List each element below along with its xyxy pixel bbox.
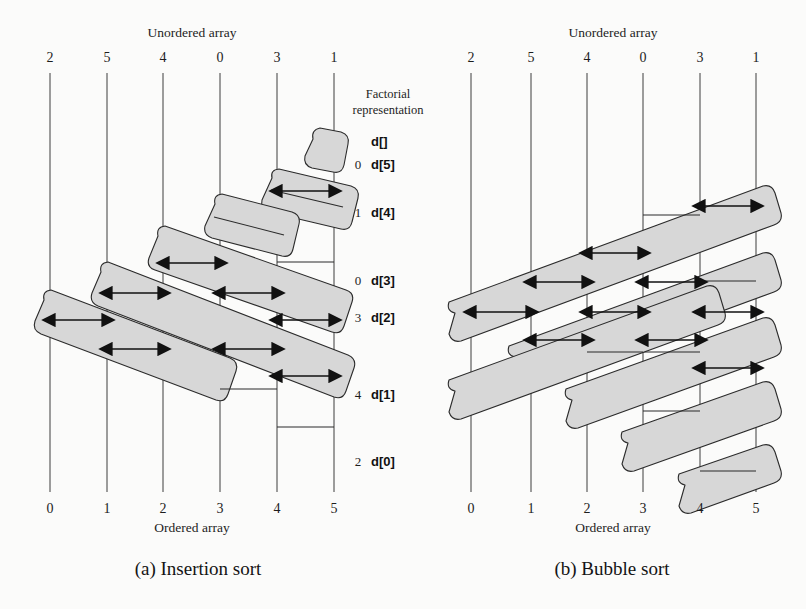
panel-b-top-title: Unordered array: [569, 25, 658, 40]
panel-b-top-label-2: 4: [584, 50, 591, 65]
panel-a-bottom-label-5: 5: [331, 501, 338, 516]
panel-a-bottom-label-1: 1: [104, 501, 111, 516]
panel-b-top-label-3: 0: [640, 50, 647, 65]
factorial-name-4: d[2]: [371, 310, 395, 325]
factorial-name-3: d[3]: [371, 273, 395, 288]
panel-a-bottom-label-3: 3: [217, 501, 224, 516]
panel-a-top-label-1: 5: [104, 50, 111, 65]
band-b-5: [678, 445, 781, 514]
factorial-representation-block: Factorial representation d[] 0 d[5] 1 d[…: [353, 87, 425, 469]
factorial-title-line1: Factorial: [366, 87, 411, 101]
factorial-name-2: d[4]: [371, 205, 395, 220]
panel-b-caption: (b) Bubble sort: [554, 558, 670, 580]
panel-a-top-labels: 2 5 4 0 3 1: [47, 50, 338, 65]
factorial-name-6: d[0]: [371, 454, 395, 469]
panel-a-bottom-label-4: 4: [274, 501, 281, 516]
figure-canvas: Unordered array 2 5 4 0 3 1 0 1 2 3 4 5 …: [0, 0, 806, 609]
panel-a-caption: (a) Insertion sort: [135, 558, 262, 580]
panel-a-top-label-5: 1: [331, 50, 338, 65]
panel-b-bottom-title: Ordered array: [575, 520, 651, 535]
panel-a-bottom-label-2: 2: [160, 501, 167, 516]
factorial-name-5: d[1]: [371, 387, 395, 402]
panel-a-top-label-2: 4: [160, 50, 167, 65]
panel-b-bottom-label-3: 3: [640, 501, 647, 516]
panel-b-bottom-label-5: 5: [753, 501, 760, 516]
band-a-1: [305, 128, 349, 172]
panel-a-top-label-0: 2: [47, 50, 54, 65]
panel-b-bottom-label-2: 2: [584, 501, 591, 516]
panel-b-bottom-label-4: 4: [697, 501, 704, 516]
factorial-digit-6: 2: [355, 454, 362, 469]
panel-b-bands: [448, 186, 781, 514]
factorial-name-1: d[5]: [371, 157, 395, 172]
factorial-digit-5: 4: [355, 387, 362, 402]
panel-a-bands: [34, 128, 358, 427]
factorial-title-line2: representation: [353, 103, 425, 117]
panel-b-top-label-1: 5: [528, 50, 535, 65]
panel-a-top-label-4: 3: [274, 50, 281, 65]
factorial-digit-1: 0: [355, 157, 362, 172]
factorial-digit-3: 0: [355, 273, 362, 288]
factorial-digit-2: 1: [355, 205, 362, 220]
panel-b-top-label-4: 3: [697, 50, 704, 65]
panel-a-top-title: Unordered array: [148, 25, 237, 40]
panel-a-bottom-title: Ordered array: [154, 520, 230, 535]
panel-a-bottom-labels: 0 1 2 3 4 5: [47, 501, 338, 516]
panel-b-bottom-label-0: 0: [468, 501, 475, 516]
panel-b-top-label-0: 2: [468, 50, 475, 65]
panel-b-top-label-5: 1: [753, 50, 760, 65]
panel-a-bottom-label-0: 0: [47, 501, 54, 516]
panel-b-top-labels: 2 5 4 0 3 1: [468, 50, 760, 65]
permutation-diagram-svg: Unordered array 2 5 4 0 3 1 0 1 2 3 4 5 …: [0, 0, 806, 609]
factorial-name-0: d[]: [371, 134, 388, 149]
panel-b-bottom-label-1: 1: [528, 501, 535, 516]
factorial-digit-4: 3: [355, 310, 362, 325]
panel-a-top-label-3: 0: [217, 50, 224, 65]
